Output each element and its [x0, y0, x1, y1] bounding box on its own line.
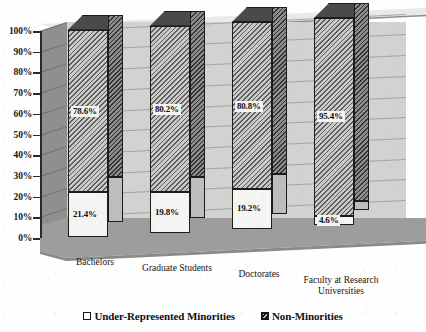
y-axis-tick-label: 100% — [9, 26, 32, 36]
x-axis-category-label-line: Faculty at Research — [281, 275, 401, 286]
y-axis-tick-label: 50% — [14, 130, 32, 140]
y-axis-tick-label: 40% — [14, 150, 32, 160]
left-wall-gridlines — [40, 22, 68, 238]
y-axis-tick-label: 30% — [14, 171, 32, 181]
y-axis-tick-label: 70% — [14, 88, 32, 98]
y-axis-tick — [33, 93, 40, 95]
bar-segment-under-represented-minorities-side — [108, 177, 123, 221]
y-axis-tick-label: 10% — [14, 212, 32, 222]
y-axis-tick-label: 80% — [14, 67, 32, 77]
y-axis-tick — [33, 31, 40, 33]
legend-item-under-represented-minorities[interactable]: Under-Represented Minorities — [83, 310, 234, 322]
y-axis-tick — [33, 197, 40, 199]
y-axis-tick — [33, 217, 40, 219]
y-axis-tick-label: 60% — [14, 109, 32, 119]
y-axis-tick — [33, 114, 40, 116]
y-axis-tick-label: 20% — [14, 192, 32, 202]
chart-plot-area-3d: 78.6%21.4%80.2%19.8%80.8%19.2%95.4%4.6% … — [0, 0, 426, 300]
bar-segment-non-minorities-side — [190, 11, 205, 177]
legend-label: Non-Minorities — [272, 310, 343, 322]
bar-segment-non-minorities-side — [354, 3, 369, 200]
chart-legend: Under-Represented Minorities Non-Minorit… — [0, 300, 426, 332]
y-axis-tick-label: 0% — [18, 233, 32, 243]
y-axis-tick — [33, 52, 40, 54]
bar-segment-under-represented-minorities-side — [190, 177, 205, 218]
y-axis-labels: 100%90%80%70%60%50%40%30%20%10%0% — [0, 0, 32, 300]
data-label-non-minorities: 80.2% — [153, 104, 181, 115]
y-axis-tick — [33, 135, 40, 137]
y-axis-tick — [33, 176, 40, 178]
legend-label: Under-Represented Minorities — [94, 310, 234, 322]
y-axis-tick — [33, 238, 40, 240]
y-axis-line — [40, 31, 42, 238]
legend-item-non-minorities[interactable]: Non-Minorities — [261, 310, 343, 322]
data-label-non-minorities: 78.6% — [71, 106, 99, 117]
bar-segment-under-represented-minorities-side — [354, 201, 369, 211]
bar-segment-non-minorities-side — [272, 7, 287, 174]
x-axis-category-label-line: Universities — [281, 286, 401, 297]
data-label-under-represented-minorities: 19.2% — [235, 203, 263, 214]
bar-segment-under-represented-minorities-side — [272, 174, 287, 214]
y-axis-tick-label: 90% — [14, 47, 32, 57]
legend-swatch-open-square-icon — [83, 312, 91, 320]
legend-swatch-hatched-square-icon — [261, 312, 269, 320]
chart-figure: 78.6%21.4%80.2%19.8%80.8%19.2%95.4%4.6% … — [0, 0, 426, 332]
data-label-under-represented-minorities: 4.6% — [317, 215, 340, 226]
y-axis-tick — [33, 155, 40, 157]
bar-segment-non-minorities-side — [108, 15, 123, 178]
data-label-under-represented-minorities: 21.4% — [71, 209, 99, 220]
data-label-non-minorities: 80.8% — [235, 101, 263, 112]
y-axis-tick — [33, 72, 40, 74]
x-axis-category-label: Faculty at ResearchUniversities — [281, 275, 401, 297]
data-label-non-minorities: 95.4% — [317, 111, 345, 122]
data-label-under-represented-minorities: 19.8% — [153, 207, 181, 218]
